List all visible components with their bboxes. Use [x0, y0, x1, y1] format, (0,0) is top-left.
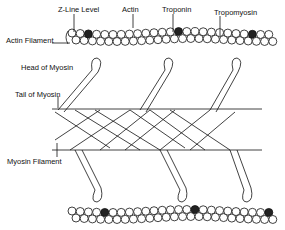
label-myosin-filament: Myosin Filament — [7, 158, 62, 166]
top-actin-filament — [68, 28, 277, 46]
label-actin-filament: Actin Filament — [6, 37, 54, 45]
label-actin: Actin — [122, 6, 139, 14]
sarcomere-diagram — [0, 0, 285, 230]
label-tropomyosin: Tropomyosin — [214, 9, 257, 17]
bottom-actin-filament — [68, 206, 277, 224]
label-troponin: Troponin — [162, 6, 191, 14]
label-z-line: Z-Line Level — [58, 6, 99, 14]
label-head-of-myosin: Head of Myosin — [21, 64, 73, 72]
label-tail-of-myosin: Tail of Myosin — [15, 91, 60, 99]
